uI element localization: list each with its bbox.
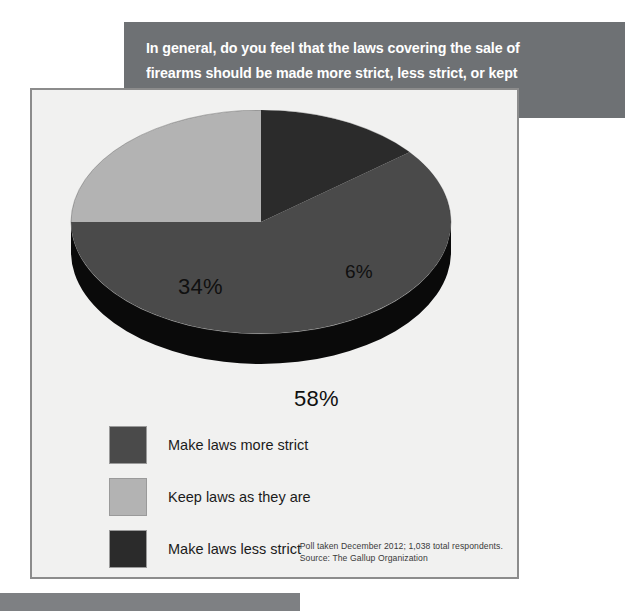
bottom-bar: [0, 593, 300, 611]
pie-chart: [65, 110, 457, 372]
source-note-line-2: Source: The Gallup Organization: [300, 553, 503, 565]
pie-chart-svg: [65, 110, 457, 372]
legend-item-keep: Keep laws as they are: [109, 471, 409, 523]
source-note: Poll taken December 2012; 1,038 total re…: [300, 541, 503, 564]
legend-swatch-less-strict: [109, 530, 147, 568]
pie-top-face: [71, 110, 451, 333]
legend-label-less-strict: Make laws less strict: [168, 541, 301, 557]
legend-label-keep: Keep laws as they are: [168, 489, 311, 505]
pie-label-keep: 34%: [178, 274, 223, 300]
legend-swatch-keep: [109, 478, 147, 516]
legend-label-more-strict: Make laws more strict: [168, 437, 308, 453]
pie-label-less-strict: 6%: [345, 261, 373, 283]
question-line-1: In general, do you feel that the laws co…: [146, 35, 572, 60]
legend-swatch-more-strict: [109, 426, 147, 464]
chart-panel: 34% 58% 6% Make laws more strict Keep la…: [30, 88, 519, 579]
pie-label-more-strict: 58%: [294, 386, 339, 412]
source-note-line-1: Poll taken December 2012; 1,038 total re…: [300, 541, 503, 553]
question-line-2: firearms should be made more strict, les…: [146, 60, 572, 85]
legend-item-more-strict: Make laws more strict: [109, 419, 409, 471]
pie-slice-keep: [71, 110, 261, 222]
